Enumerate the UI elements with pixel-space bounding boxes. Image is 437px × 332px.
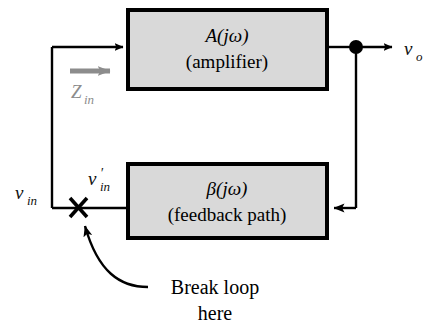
label-vin: v in <box>15 182 37 208</box>
label-vout-subscript: o <box>416 49 423 64</box>
figure-canvas: A(jω) (amplifier) β(jω) (feedback path) <box>0 0 437 332</box>
label-vin-subscript: in <box>27 193 37 208</box>
amplifier-function-label: A(jω) <box>204 25 249 47</box>
label-zin-symbol: Z <box>71 81 82 102</box>
label-vin-prime-symbol: v <box>88 168 97 189</box>
break-loop-annotation: Break loop here <box>171 276 259 324</box>
label-vin-prime-subscript: in <box>100 179 110 194</box>
amplifier-block: A(jω) (amplifier) <box>128 10 327 89</box>
feedback-block: β(jω) (feedback path) <box>128 164 327 238</box>
label-zin: Z in <box>71 81 94 107</box>
break-loop-line-2: here <box>198 302 233 324</box>
feedback-function-label: β(jω) <box>206 178 248 200</box>
break-loop-line-1: Break loop <box>171 276 259 299</box>
label-zin-subscript: in <box>84 92 94 107</box>
amplifier-block-rect <box>128 10 327 89</box>
label-vin-symbol: v <box>15 182 24 203</box>
feedback-block-rect <box>128 164 327 238</box>
feedback-name-label: (feedback path) <box>168 204 287 226</box>
amplifier-name-label: (amplifier) <box>186 51 268 73</box>
label-vout-symbol: v <box>404 38 413 59</box>
label-vin-prime: v ′ in <box>88 166 110 194</box>
label-vout: v o <box>404 38 423 64</box>
block-diagram: A(jω) (amplifier) β(jω) (feedback path) <box>0 0 437 332</box>
